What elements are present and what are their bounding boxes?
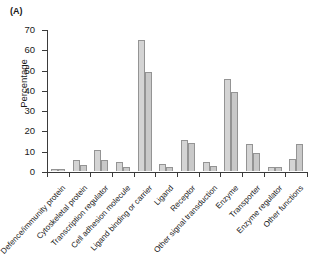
bar-group bbox=[51, 169, 65, 171]
bar[interactable] bbox=[159, 164, 166, 171]
x-tick bbox=[155, 173, 156, 177]
bar-group bbox=[246, 144, 260, 171]
x-tick bbox=[47, 173, 48, 177]
x-tick bbox=[307, 173, 308, 177]
plot-area: 010203040506070 bbox=[47, 30, 307, 172]
x-tick bbox=[134, 173, 135, 177]
y-tick: 40 bbox=[42, 91, 47, 92]
y-axis-line bbox=[47, 30, 48, 173]
bar-group bbox=[268, 167, 282, 171]
y-tick-label: 60 bbox=[24, 44, 35, 55]
x-tick bbox=[285, 173, 286, 177]
bar[interactable] bbox=[289, 159, 296, 171]
bar[interactable] bbox=[116, 162, 123, 171]
y-tick-label: 40 bbox=[24, 85, 35, 96]
x-tick bbox=[69, 173, 70, 177]
bar-group bbox=[203, 162, 217, 171]
bar[interactable] bbox=[275, 167, 282, 171]
bar-group bbox=[73, 160, 87, 171]
bar-group bbox=[289, 144, 303, 171]
bar-group bbox=[116, 162, 130, 171]
bar[interactable] bbox=[268, 167, 275, 171]
bar[interactable] bbox=[138, 40, 145, 171]
x-tick bbox=[90, 173, 91, 177]
bar[interactable] bbox=[203, 162, 210, 171]
bar-group bbox=[224, 79, 238, 171]
y-tick-label: 30 bbox=[24, 105, 35, 116]
bar[interactable] bbox=[231, 92, 238, 171]
y-tick-label: 0 bbox=[30, 166, 35, 177]
bar[interactable] bbox=[58, 169, 65, 171]
bar[interactable] bbox=[145, 72, 152, 171]
y-tick: 70 bbox=[42, 30, 47, 31]
x-tick bbox=[112, 173, 113, 177]
bar-group bbox=[159, 164, 173, 171]
bar[interactable] bbox=[296, 144, 303, 171]
y-tick-label: 10 bbox=[24, 146, 35, 157]
bar[interactable] bbox=[166, 167, 173, 171]
bar[interactable] bbox=[253, 153, 260, 171]
bar[interactable] bbox=[101, 160, 108, 171]
bar[interactable] bbox=[123, 167, 130, 171]
bar[interactable] bbox=[210, 166, 217, 171]
y-tick: 10 bbox=[42, 152, 47, 153]
y-tick: 20 bbox=[42, 131, 47, 132]
bar-group bbox=[181, 140, 195, 171]
bar-group bbox=[94, 150, 108, 171]
bar[interactable] bbox=[51, 169, 58, 171]
bar[interactable] bbox=[224, 79, 231, 171]
panel-letter: (A) bbox=[10, 6, 23, 16]
bar[interactable] bbox=[188, 143, 195, 171]
y-tick-label: 20 bbox=[24, 125, 35, 136]
y-tick-label: 50 bbox=[24, 65, 35, 76]
x-tick bbox=[199, 173, 200, 177]
bar-group bbox=[138, 40, 152, 171]
x-tick bbox=[242, 173, 243, 177]
bar[interactable] bbox=[73, 160, 80, 171]
bar[interactable] bbox=[181, 140, 188, 171]
y-tick: 30 bbox=[42, 111, 47, 112]
x-tick bbox=[177, 173, 178, 177]
x-tick bbox=[220, 173, 221, 177]
y-tick-label: 70 bbox=[24, 24, 35, 35]
figure-panel-a: (A) Percentage 010203040506070 Defence/i… bbox=[0, 0, 325, 268]
bar[interactable] bbox=[94, 150, 101, 171]
y-tick: 50 bbox=[42, 71, 47, 72]
bar[interactable] bbox=[80, 165, 87, 171]
x-tick bbox=[264, 173, 265, 177]
y-tick: 60 bbox=[42, 50, 47, 51]
bar[interactable] bbox=[246, 144, 253, 171]
